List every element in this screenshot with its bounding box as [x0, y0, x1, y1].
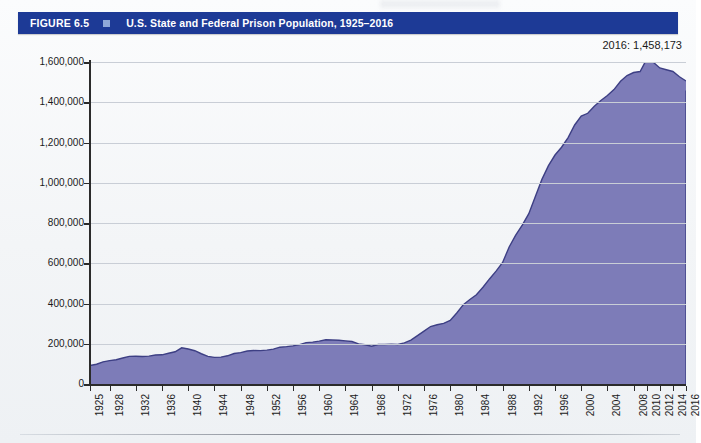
grid-line: [90, 102, 686, 103]
grid-line: [90, 183, 686, 184]
x-axis-tick-label: 1992: [533, 394, 544, 416]
x-axis-tick-mark: [110, 386, 111, 391]
y-axis-tick-mark: [84, 102, 89, 104]
x-axis-tick-mark: [476, 386, 477, 391]
y-axis-tick-mark: [84, 263, 89, 265]
x-axis-tick-label: 1948: [245, 394, 256, 416]
y-axis-tick-label: 1,000,000: [16, 177, 84, 188]
x-axis-tick-mark: [162, 386, 163, 391]
x-axis-tick-label: 2008: [638, 394, 649, 416]
grid-line: [90, 304, 686, 305]
x-axis-tick-mark: [686, 386, 687, 391]
x-axis-tick-mark: [372, 386, 373, 391]
x-axis-tick-mark: [241, 386, 242, 391]
x-axis-tick-mark: [607, 386, 608, 391]
y-axis-tick-mark: [84, 304, 89, 306]
x-axis-tick-mark: [660, 386, 661, 391]
y-axis-tick-label: 1,600,000: [16, 56, 84, 67]
y-axis-tick-label: 800,000: [16, 217, 84, 228]
x-axis-tick-label: 2000: [585, 394, 596, 416]
x-axis-tick-mark: [188, 386, 189, 391]
x-axis-tick-label: 1964: [349, 394, 360, 416]
x-axis-tick-mark: [529, 386, 530, 391]
y-axis-tick-label: 1,200,000: [16, 137, 84, 148]
y-axis-tick-label: 1,400,000: [16, 96, 84, 107]
x-axis-line: [89, 384, 686, 386]
x-axis-tick-label: 1968: [376, 394, 387, 416]
x-axis-tick-mark: [555, 386, 556, 391]
x-axis-tick-mark: [673, 386, 674, 391]
grid-line: [90, 223, 686, 224]
x-axis-tick-mark: [647, 386, 648, 391]
y-axis-line: [89, 60, 91, 386]
x-axis-tick-label: 2010: [651, 394, 662, 416]
y-axis-tick-mark: [84, 384, 89, 386]
y-axis-tick-mark: [84, 223, 89, 225]
y-axis-tick-label: 400,000: [16, 298, 84, 309]
y-axis-tick-mark: [84, 62, 89, 64]
y-axis-tick-mark: [84, 344, 89, 346]
x-axis-tick-mark: [293, 386, 294, 391]
x-axis-tick-label: 1928: [114, 394, 125, 416]
x-axis-tick-label: 1960: [323, 394, 334, 416]
x-axis-tick-label: 1976: [428, 394, 439, 416]
x-axis-tick-mark: [319, 386, 320, 391]
y-axis-tick-labels: 0200,000400,000600,000800,0001,000,0001,…: [14, 62, 84, 384]
x-axis-tick-mark: [214, 386, 215, 391]
x-axis-tick-label: 2012: [664, 394, 675, 416]
x-axis-tick-mark: [503, 386, 504, 391]
page-bottom-rule: [20, 434, 680, 435]
x-axis-tick-label: 2016: [690, 394, 701, 416]
x-axis-tick-label: 1932: [140, 394, 151, 416]
plot-canvas: [90, 62, 686, 384]
x-axis-tick-label: 1925: [94, 394, 105, 416]
x-axis-tick-label: 2014: [677, 394, 688, 416]
x-axis-tick-mark: [136, 386, 137, 391]
grid-line: [90, 263, 686, 264]
x-axis-tick-label: 1984: [480, 394, 491, 416]
x-axis-tick-label: 1996: [559, 394, 570, 416]
x-axis-tick-label: 1980: [454, 394, 465, 416]
x-axis-tick-label: 1956: [297, 394, 308, 416]
x-axis-tick-mark: [345, 386, 346, 391]
x-axis-tick-label: 1936: [166, 394, 177, 416]
x-axis-tick-mark: [450, 386, 451, 391]
x-axis-tick-mark: [90, 386, 91, 391]
x-axis-tick-label: 1952: [271, 394, 282, 416]
x-axis-tick-mark: [267, 386, 268, 391]
y-axis-tick-label: 200,000: [16, 338, 84, 349]
x-axis-tick-label: 1988: [507, 394, 518, 416]
grid-line: [90, 143, 686, 144]
y-axis-tick-label: 600,000: [16, 257, 84, 268]
grid-line: [90, 344, 686, 345]
y-axis-tick-mark: [84, 143, 89, 145]
x-axis-tick-label: 1972: [402, 394, 413, 416]
y-axis-tick-label: 0: [16, 378, 84, 389]
x-axis-tick-mark: [398, 386, 399, 391]
x-axis-tick-label: 1944: [218, 394, 229, 416]
grid-line: [90, 62, 686, 63]
x-axis-tick-mark: [634, 386, 635, 391]
x-axis-tick-label: 1940: [192, 394, 203, 416]
y-axis-tick-mark: [84, 183, 89, 185]
x-axis-tick-mark: [424, 386, 425, 391]
x-axis-tick-mark: [581, 386, 582, 391]
x-axis-tick-label: 2004: [611, 394, 622, 416]
